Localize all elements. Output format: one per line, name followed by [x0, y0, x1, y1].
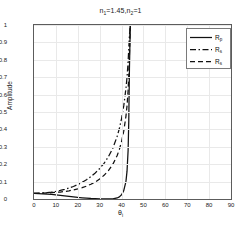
- legend-label-base: R: [215, 58, 220, 65]
- y-axis-tick-label: 0: [0, 196, 7, 202]
- gridline-horizontal: [34, 95, 231, 96]
- gridline-vertical: [231, 25, 232, 199]
- x-axis-tick-label: 60: [155, 202, 175, 208]
- y-axis-tick-label: 0.7: [0, 74, 7, 80]
- x-axis-tick-label: 90: [221, 202, 241, 208]
- legend-label: Rs: [215, 46, 222, 53]
- legend-label-subscript: s: [220, 49, 222, 54]
- y-axis-tick-label: 0.3: [0, 144, 7, 150]
- legend-line-swatch: [189, 45, 213, 54]
- gridline-horizontal: [34, 77, 231, 78]
- legend-label: Rs: [215, 58, 222, 65]
- gridline-horizontal: [34, 129, 231, 130]
- x-axis-label: θi: [0, 209, 241, 216]
- x-axis-tick-label: 20: [68, 202, 88, 208]
- x-axis-tick-label: 0: [24, 202, 44, 208]
- x-axis-tick-label: 30: [90, 202, 110, 208]
- x-axis-tick-label: 80: [199, 202, 219, 208]
- legend-item[interactable]: Rs: [189, 55, 228, 67]
- gridline-horizontal: [34, 25, 231, 26]
- y-axis-tick-label: 0.2: [0, 161, 7, 167]
- y-axis-tick-label: 0.4: [0, 126, 7, 132]
- legend-item[interactable]: Rs: [189, 43, 228, 55]
- legend: RpRsRs: [186, 28, 231, 69]
- y-axis-tick-label: 0.6: [0, 92, 7, 98]
- legend-line-swatch: [189, 33, 213, 42]
- y-axis-tick-label: 0.8: [0, 57, 7, 63]
- gridline-horizontal: [34, 182, 231, 183]
- x-axis-tick-label: 50: [133, 202, 153, 208]
- legend-label-base: R: [215, 34, 220, 41]
- legend-label-base: R: [215, 46, 220, 53]
- legend-item[interactable]: Rp: [189, 31, 228, 43]
- x-axis-tick-label: 70: [177, 202, 197, 208]
- title-n1-sub: 1: [103, 10, 106, 16]
- gridline-horizontal: [34, 147, 231, 148]
- x-axis-tick-label: 40: [112, 202, 132, 208]
- x-axis-tick-label: 10: [46, 202, 66, 208]
- chart-figure: n1=1.45,n2=1 Amplitude θi 00.10.20.30.40…: [0, 0, 241, 228]
- gridline-horizontal: [34, 112, 231, 113]
- title-n1-value: =1.45,: [106, 7, 126, 14]
- legend-line-swatch: [189, 57, 213, 66]
- legend-label: Rp: [215, 34, 222, 41]
- y-axis-tick-label: 0.1: [0, 179, 7, 185]
- legend-label-subscript: s: [220, 61, 222, 66]
- x-axis-label-sub: i: [122, 212, 123, 218]
- title-n2-sub: 2: [131, 10, 134, 16]
- gridline-horizontal: [34, 164, 231, 165]
- chart-title: n1=1.45,n2=1: [0, 7, 241, 14]
- y-axis-tick-label: 0.5: [0, 109, 7, 115]
- y-axis-tick-label: 1: [0, 22, 7, 28]
- y-axis-tick-label: 0.9: [0, 39, 7, 45]
- title-n2-value: =1: [133, 7, 141, 14]
- title-n2-base: n: [127, 7, 131, 14]
- legend-label-subscript: p: [220, 37, 223, 42]
